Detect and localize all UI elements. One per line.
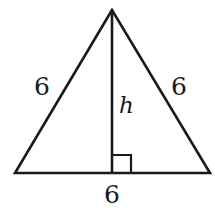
height-label: h <box>119 92 134 118</box>
triangle-diagram: 6 6 h 6 <box>0 0 215 212</box>
right-angle-marker <box>112 155 131 173</box>
left-side-label: 6 <box>34 72 50 101</box>
right-side-label: 6 <box>171 72 187 101</box>
base-label: 6 <box>104 180 120 209</box>
